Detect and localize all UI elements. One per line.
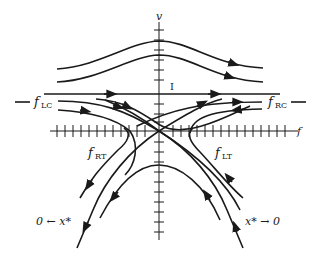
f-rc-label: f RC xyxy=(267,94,306,110)
svg-text:RT: RT xyxy=(95,152,107,161)
svg-text:f: f xyxy=(87,145,95,160)
svg-text:LC: LC xyxy=(41,101,52,110)
trajectory-left-3-arrow xyxy=(80,110,86,111)
left-limit-label: 0 ← x* xyxy=(36,215,71,228)
f-lt-label: f LT xyxy=(214,145,233,161)
svg-text:RC: RC xyxy=(275,101,287,110)
svg-text:f: f xyxy=(267,94,275,109)
v-axis-label: v xyxy=(156,10,163,23)
svg-text:LT: LT xyxy=(222,152,233,161)
trajectory-right-2 xyxy=(190,109,262,133)
right-limit-label: x* → 0 xyxy=(245,215,280,228)
trajectory-lt-1-arrow xyxy=(228,177,232,182)
f-axis-label: f xyxy=(296,125,303,138)
trajectory-right-2-arrow xyxy=(236,109,244,110)
trajectory-top-inner-arrow xyxy=(224,75,230,77)
trajectory-top-outer-arrow xyxy=(228,62,234,64)
trajectory-top-inner xyxy=(57,55,263,82)
trajectory-left-3 xyxy=(58,110,135,175)
f-lc-label: f LC xyxy=(15,94,52,110)
svg-text:f: f xyxy=(214,145,222,160)
f-rt-label: f RT xyxy=(87,145,107,161)
phase-plane-diagram: v f I f LC f RC f RT f LT 0 ← x* x* → 0 xyxy=(0,0,314,257)
svg-text:f: f xyxy=(33,94,41,109)
separatrix-I-label: I xyxy=(170,81,174,92)
